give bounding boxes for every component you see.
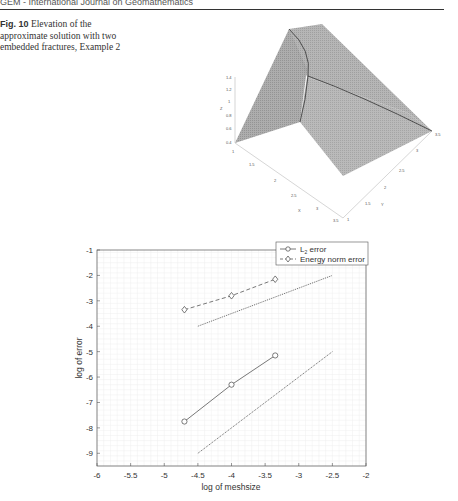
diamond-marker-icon <box>182 306 187 313</box>
legend: L2 error Energy norm error <box>276 242 368 265</box>
x-tick: -5 <box>161 471 169 480</box>
convergence-chart: -6-5.5-5-4.5-4-3.5-3-2.5-2 -1-2-3-4-5-6-… <box>0 0 458 501</box>
y-tick: -5 <box>86 348 94 357</box>
x-tick: -6 <box>93 471 101 480</box>
y-tick: -8 <box>86 424 94 433</box>
y-tick: -4 <box>86 322 94 331</box>
x-tick: -4.5 <box>191 471 205 480</box>
x-tick: -3 <box>295 471 303 480</box>
circle-marker-icon <box>229 382 234 387</box>
x-tick: -3.5 <box>258 471 272 480</box>
x-tick: -2.5 <box>325 471 339 480</box>
y-tick: -1 <box>86 246 94 255</box>
x-axis-label: log of meshsize <box>201 482 260 492</box>
circle-marker-icon <box>273 353 278 358</box>
y-tick: -9 <box>86 449 94 458</box>
y-tick: -3 <box>86 297 94 306</box>
legend-l2: L2 error <box>300 245 327 255</box>
circle-marker-icon <box>286 247 290 251</box>
y-tick: -7 <box>86 398 94 407</box>
x-tick: -2 <box>362 471 370 480</box>
x-tick-labels: -6-5.5-5-4.5-4-3.5-3-2.5-2 <box>93 463 370 480</box>
legend-energy: Energy norm error <box>300 255 365 264</box>
plot-grid <box>97 250 366 466</box>
y-tick: -2 <box>86 271 94 280</box>
y-axis-label: log of error <box>74 337 84 378</box>
diamond-marker-icon <box>273 276 278 283</box>
x-tick: -4 <box>228 471 236 480</box>
y-tick: -6 <box>86 373 94 382</box>
x-tick: -5.5 <box>124 471 138 480</box>
circle-marker-icon <box>182 419 187 424</box>
